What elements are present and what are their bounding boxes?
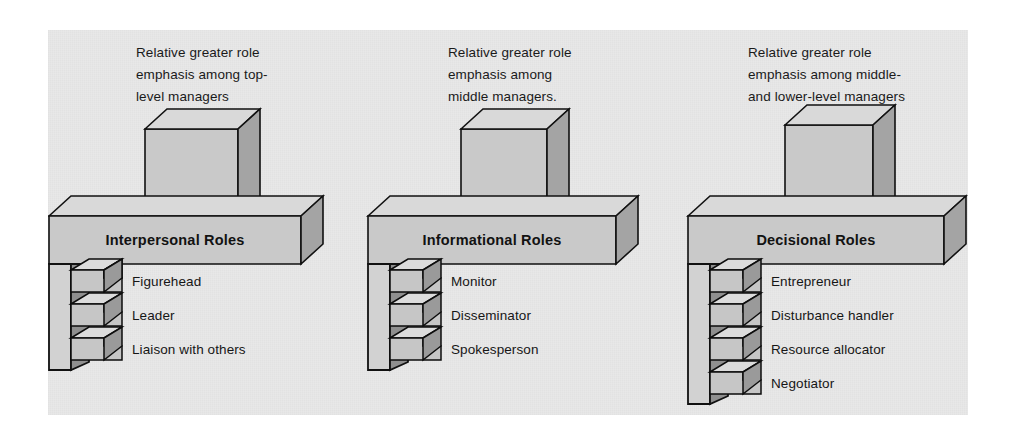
bar-label-decisional: Decisional Roles bbox=[756, 232, 875, 248]
column-interpersonal: Relative greater role emphasis among top… bbox=[49, 45, 323, 370]
role-item-leader: Leader bbox=[71, 293, 175, 326]
column-decisional: Relative greater role emphasis among mid… bbox=[688, 45, 966, 404]
role-label-entrepreneur: Entrepreneur bbox=[771, 274, 851, 289]
caption-line-informational-2: middle managers. bbox=[448, 89, 557, 104]
caption-line-interpersonal-1: emphasis among top- bbox=[136, 67, 268, 82]
roles-bar-interpersonal: Interpersonal Roles bbox=[49, 196, 323, 264]
role-label-spokesperson: Spokesperson bbox=[451, 342, 539, 357]
role-label-liaison: Liaison with others bbox=[132, 342, 246, 357]
role-label-figurehead: Figurehead bbox=[132, 274, 201, 289]
caption-line-informational-0: Relative greater role bbox=[448, 45, 572, 60]
bar-label-interpersonal: Interpersonal Roles bbox=[105, 232, 244, 248]
role-item-spokesperson: Spokesperson bbox=[390, 327, 539, 360]
caption-line-decisional-2: and lower-level managers bbox=[748, 89, 905, 104]
roles-bar-informational: Informational Roles bbox=[368, 196, 638, 264]
roles-bar-decisional: Decisional Roles bbox=[688, 196, 966, 264]
caption-line-interpersonal-2: level managers bbox=[136, 89, 229, 104]
role-item-liaison: Liaison with others bbox=[71, 327, 246, 360]
role-label-resource-allocator: Resource allocator bbox=[771, 342, 886, 357]
role-item-negotiator: Negotiator bbox=[710, 361, 835, 394]
caption-line-decisional-0: Relative greater role bbox=[748, 45, 872, 60]
role-label-disseminator: Disseminator bbox=[451, 308, 531, 323]
managerial-roles-diagram: Relative greater role emphasis among top… bbox=[48, 30, 968, 415]
role-label-leader: Leader bbox=[132, 308, 175, 323]
role-label-monitor: Monitor bbox=[451, 274, 497, 289]
caption-line-interpersonal-0: Relative greater role bbox=[136, 45, 260, 60]
caption-line-informational-1: emphasis among bbox=[448, 67, 552, 82]
role-label-negotiator: Negotiator bbox=[771, 376, 835, 391]
diagram-panel: Relative greater role emphasis among top… bbox=[48, 30, 968, 415]
bar-label-informational: Informational Roles bbox=[422, 232, 561, 248]
role-item-disturbance-handler: Disturbance handler bbox=[710, 293, 894, 326]
role-label-disturbance-handler: Disturbance handler bbox=[771, 308, 894, 323]
figure-root: Relative greater role emphasis among top… bbox=[0, 0, 1017, 435]
role-item-resource-allocator: Resource allocator bbox=[710, 327, 886, 360]
caption-line-decisional-1: emphasis among middle- bbox=[748, 67, 901, 82]
role-item-disseminator: Disseminator bbox=[390, 293, 531, 326]
column-informational: Relative greater role emphasis among mid… bbox=[368, 45, 638, 370]
